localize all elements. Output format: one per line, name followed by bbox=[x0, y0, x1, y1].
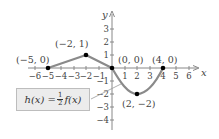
x-tick-label: 5 bbox=[173, 71, 178, 81]
formula-rhs: f(x) bbox=[64, 94, 81, 105]
x-tick-label: 2 bbox=[134, 71, 139, 81]
y-tick-label: 3 bbox=[104, 24, 109, 34]
x-axis-label: x bbox=[201, 67, 207, 78]
point-label: (4, 0) bbox=[152, 54, 178, 65]
formula-label-box: h(x) = 1 2 f(x) bbox=[16, 88, 90, 111]
formula-lhs: h(x) = bbox=[24, 94, 55, 105]
point-neg2-1 bbox=[84, 53, 89, 58]
x-tick-label: 6 bbox=[186, 71, 191, 81]
x-tick-label: −6 bbox=[29, 71, 42, 81]
point-label: (2, −2) bbox=[122, 98, 156, 109]
y-tick-label: −4 bbox=[96, 115, 109, 125]
x-tick-label: −5 bbox=[42, 71, 55, 81]
point-label: (0, 0) bbox=[118, 54, 144, 65]
y-tick-label: 1 bbox=[104, 50, 109, 60]
graph: x y −6 −5 −4 −3 −2 −1 1 2 3 4 5 6 3 2 1 … bbox=[0, 0, 219, 139]
formula-fraction: 1 2 bbox=[57, 92, 63, 107]
y-tick-label: −3 bbox=[96, 102, 109, 112]
x-tick-label: 3 bbox=[147, 71, 152, 81]
x-tick-label: −2 bbox=[80, 71, 93, 81]
y-tick-label: −1 bbox=[96, 76, 109, 86]
y-tick-label: 2 bbox=[104, 37, 109, 47]
point-4-0 bbox=[161, 66, 166, 71]
point-label: (−2, 1) bbox=[55, 38, 89, 49]
point-label: (−5, 0) bbox=[16, 54, 50, 65]
point-neg5-0 bbox=[46, 66, 51, 71]
point-0-0 bbox=[110, 66, 115, 71]
y-axis-label: y bbox=[101, 9, 108, 20]
x-tick-label: −3 bbox=[68, 71, 81, 81]
x-tick-labels: −6 −5 −4 −3 −2 −1 1 2 3 4 5 6 bbox=[29, 71, 192, 81]
x-tick-label: −4 bbox=[55, 71, 68, 81]
fraction-denominator: 2 bbox=[58, 100, 62, 107]
point-2-neg2 bbox=[135, 92, 140, 97]
x-tick-label: 1 bbox=[122, 71, 127, 81]
